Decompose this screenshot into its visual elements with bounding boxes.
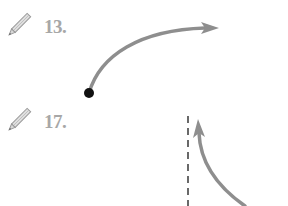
figure-17 — [0, 0, 288, 206]
curve-arrow — [199, 133, 245, 206]
